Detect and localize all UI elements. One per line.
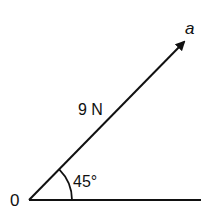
origin-label: 0 bbox=[10, 191, 19, 210]
magnitude-label: 9 N bbox=[78, 101, 103, 118]
diagram-svg: a 9 N 45° 0 bbox=[0, 0, 211, 220]
vector-a-arrow bbox=[29, 42, 184, 200]
vector-diagram: a 9 N 45° 0 bbox=[0, 0, 211, 220]
vector-label: a bbox=[185, 19, 194, 38]
angle-label: 45° bbox=[73, 173, 97, 190]
angle-arc bbox=[59, 170, 72, 200]
